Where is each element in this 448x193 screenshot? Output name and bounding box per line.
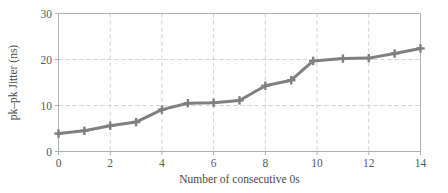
x-tick-label: 0 <box>56 157 62 169</box>
x-tick-label: 10 <box>311 157 323 169</box>
y-tick-label: 20 <box>41 54 53 66</box>
x-tick-label: 4 <box>159 157 165 169</box>
y-tick-label: 0 <box>46 146 52 158</box>
y-axis-title: pk–pk Jitter (ns) <box>7 45 20 121</box>
x-tick-label: 8 <box>262 157 268 169</box>
plot-background <box>59 14 421 152</box>
y-tick-label: 30 <box>41 8 53 20</box>
x-axis-title: Number of consecutive 0s <box>179 173 300 185</box>
chart-figure: 024681012140102030Number of consecutive … <box>0 0 448 193</box>
x-tick-label: 2 <box>107 157 113 169</box>
x-tick-label: 14 <box>415 157 427 169</box>
x-tick-label: 6 <box>211 157 217 169</box>
chart-canvas: 024681012140102030Number of consecutive … <box>0 0 448 193</box>
x-tick-label: 12 <box>363 157 375 169</box>
y-tick-label: 10 <box>41 100 53 112</box>
